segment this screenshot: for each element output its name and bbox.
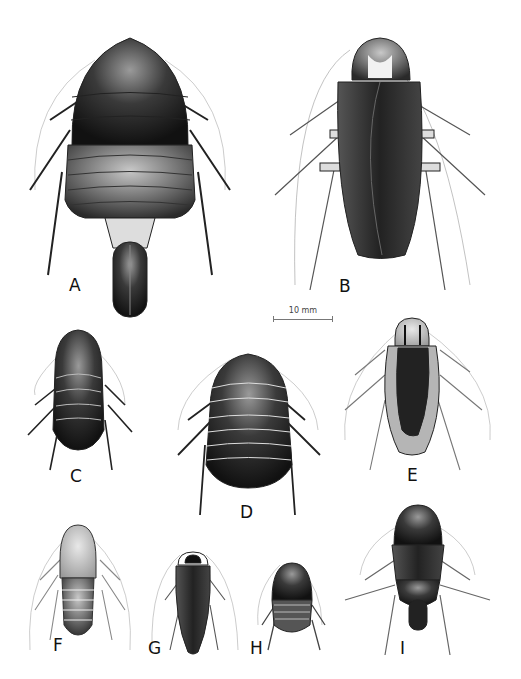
- specimen-a: [30, 38, 230, 317]
- specimen-c: [28, 330, 132, 470]
- specimen-i: [345, 505, 490, 655]
- illustration-plate: A B C D E F G H I 10 mm: [0, 0, 521, 679]
- specimen-label-i: I: [400, 640, 405, 657]
- specimen-label-a: A: [69, 277, 81, 294]
- specimen-label-c: C: [70, 468, 82, 485]
- specimen-label-h: H: [250, 640, 263, 657]
- specimen-label-b: B: [339, 278, 351, 295]
- specimen-label-g: G: [148, 640, 161, 657]
- scale-bar-label: 10 mm: [270, 306, 336, 315]
- scale-bar-tick-right: [332, 316, 333, 322]
- specimen-d: [178, 354, 320, 515]
- specimen-g: [152, 552, 238, 654]
- specimen-b: [275, 38, 485, 290]
- scale-bar: 10 mm: [270, 306, 336, 326]
- scale-bar-line: [273, 319, 333, 320]
- specimen-label-f: F: [53, 637, 63, 654]
- specimen-label-e: E: [407, 467, 418, 484]
- specimen-drawings: [0, 0, 521, 679]
- specimen-label-d: D: [240, 504, 253, 521]
- specimen-e: [345, 318, 491, 470]
- scale-bar-tick-left: [273, 316, 274, 322]
- specimen-h: [258, 563, 325, 650]
- specimen-f: [30, 525, 131, 650]
